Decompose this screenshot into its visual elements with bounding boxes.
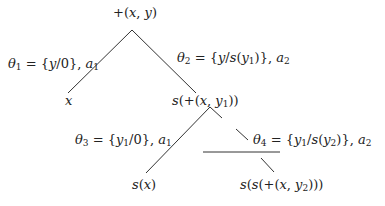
edge-label-theta2: θ2 = {y/s(y1)}, a2	[177, 51, 290, 64]
edge-rc-right-mid	[236, 129, 248, 140]
edge-label-theta1: θ1 = {y/0}, a1	[8, 57, 99, 70]
node-rc-left-leaf: s(x)	[132, 178, 156, 191]
node-right-child: s(+(x, y1))	[172, 94, 239, 107]
edge-rc-right-stub	[210, 107, 222, 118]
node-left-leaf: x	[65, 94, 72, 107]
edge-rc-right-lower	[261, 158, 274, 172]
node-rc-right-leaf: s(s(+(x, y2)))	[240, 178, 323, 191]
edge-label-theta3: θ3 = {y1/0}, a1	[75, 133, 172, 146]
node-root: +(x, y)	[113, 6, 157, 19]
edge-label-theta4: θ4 = {y1/s(y2)}, a2	[253, 133, 371, 146]
